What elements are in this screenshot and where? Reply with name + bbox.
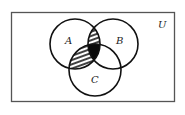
label-universe: U bbox=[158, 19, 167, 30]
label-a: A bbox=[64, 35, 72, 46]
venn-diagram: A B C U bbox=[0, 0, 185, 115]
label-b: B bbox=[115, 35, 123, 46]
label-c: C bbox=[91, 74, 99, 85]
